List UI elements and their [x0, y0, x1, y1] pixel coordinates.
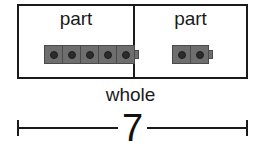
- connecting-cube-icon: [44, 45, 63, 64]
- part-label-left: part: [19, 8, 133, 30]
- connecting-cube-icon: [62, 45, 81, 64]
- connecting-cube-icon: [116, 45, 135, 64]
- line-segment-right: [147, 127, 248, 129]
- part-cell-right: part: [135, 6, 246, 77]
- whole-measure-line: 7: [17, 112, 248, 144]
- line-end-tick-right: [246, 120, 248, 136]
- cube-train-right: [172, 45, 213, 64]
- cube-connector-icon: [208, 50, 213, 59]
- connecting-cube-icon: [80, 45, 99, 64]
- cube-train-left: [44, 45, 139, 64]
- part-label-right: part: [135, 8, 246, 30]
- whole-label: whole: [0, 84, 261, 106]
- connecting-cube-icon: [190, 45, 209, 64]
- connecting-cube-icon: [172, 45, 191, 64]
- part-cell-left: part: [19, 6, 135, 77]
- part-part-box: part part: [17, 4, 248, 79]
- connecting-cube-icon: [98, 45, 117, 64]
